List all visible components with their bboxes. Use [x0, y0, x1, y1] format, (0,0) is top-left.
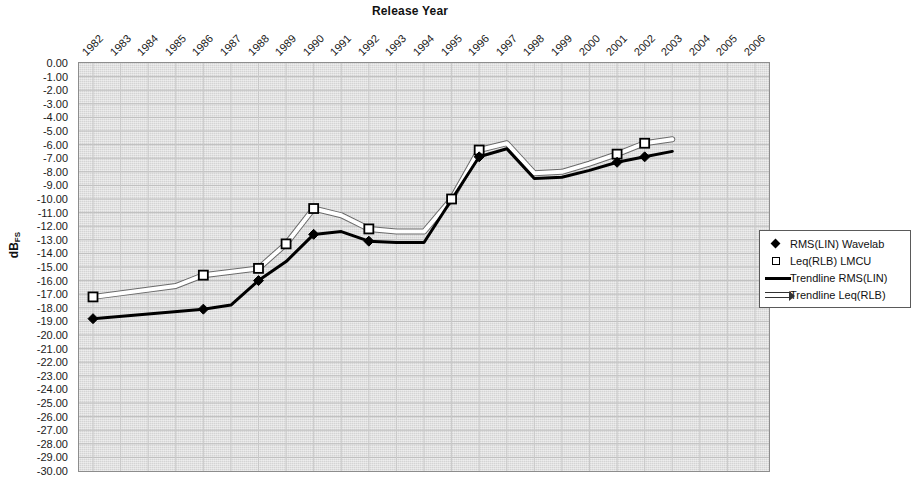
legend-item-label: RMS(LIN) Wavelab [790, 238, 884, 250]
y-axis-tick-label: -1.00 [43, 71, 68, 82]
legend-item[interactable]: Trendline Leq(RLB) [764, 286, 906, 303]
trendline-leq-rlb [93, 139, 672, 297]
x-axis-tick-labels: 1982198319841985198619871988198919901991… [0, 0, 917, 62]
x-axis-tick-label: 1988 [246, 33, 271, 58]
x-axis-tick-label: 1992 [356, 33, 381, 58]
y-axis-tick-label: -22.00 [37, 357, 68, 368]
legend-item-label: Leq(RLB) LMCU [790, 255, 871, 267]
legend-item[interactable]: RMS(LIN) Wavelab [764, 235, 906, 252]
y-axis-tick-label: -27.00 [37, 425, 68, 436]
marker-leq-rlb-lmcu [89, 292, 98, 301]
x-axis-tick-label: 2005 [715, 33, 740, 58]
y-axis-tick-label: -9.00 [43, 180, 68, 191]
marker-leq-rlb-lmcu [640, 139, 649, 148]
x-axis-tick-label: 2000 [577, 33, 602, 58]
legend-key [764, 252, 790, 269]
x-axis-tick-label: 1982 [80, 33, 105, 58]
marker-leq-rlb-lmcu [199, 271, 208, 280]
marker-rms-lin-wavelab [88, 314, 98, 324]
y-axis-tick-label: -19.00 [37, 316, 68, 327]
legend-item[interactable]: Leq(RLB) LMCU [764, 252, 906, 269]
y-axis-tick-label: -11.00 [38, 207, 68, 218]
y-axis-tick-label: -24.00 [37, 384, 68, 395]
marker-leq-rlb-lmcu [364, 224, 373, 233]
legend-item-label: Trendline RMS(LIN) [790, 272, 887, 284]
x-axis-tick-label: 1998 [522, 33, 547, 58]
y-axis-tick-label: -4.00 [43, 112, 68, 123]
legend-item[interactable]: Trendline RMS(LIN) [764, 269, 906, 286]
y-axis-tick-label: -15.00 [37, 262, 68, 273]
marker-leq-rlb-lmcu [309, 204, 318, 213]
y-axis-tick-label: -30.00 [37, 466, 68, 477]
y-axis-tick-label: -6.00 [43, 139, 68, 150]
y-axis-tick-label: -13.00 [37, 234, 68, 245]
marker-rms-lin-wavelab [364, 236, 374, 246]
y-axis-tick-label: -16.00 [37, 275, 68, 286]
x-axis-tick-label: 2003 [659, 33, 684, 58]
x-axis-tick-label: 1993 [384, 33, 409, 58]
x-axis-tick-label: 2001 [604, 33, 629, 58]
x-axis-tick-label: 1989 [273, 33, 298, 58]
legend-key [764, 235, 790, 252]
x-axis-tick-label: 1984 [135, 33, 160, 58]
legend-black-line-icon [765, 277, 791, 280]
legend-white-line-icon [765, 292, 791, 298]
x-axis-tick-label: 1994 [411, 33, 436, 58]
x-axis-tick-label: 1995 [439, 33, 464, 58]
plot-area [78, 62, 770, 472]
y-axis-tick-labels: 0.00-1.00-2.00-3.00-4.00-5.00-6.00-7.00-… [0, 62, 74, 472]
y-axis-tick-label: -18.00 [37, 302, 68, 313]
y-axis-tick-label: -23.00 [37, 370, 68, 381]
trendline-rms-lin [93, 149, 672, 319]
y-axis-tick-label: -28.00 [37, 438, 68, 449]
marker-rms-lin-wavelab [198, 304, 208, 314]
y-axis-tick-label: -8.00 [43, 166, 68, 177]
y-axis-tick-label: -14.00 [37, 248, 68, 259]
marker-leq-rlb-lmcu [447, 195, 456, 204]
x-axis-tick-label: 1985 [163, 33, 188, 58]
y-axis-tick-label: -21.00 [37, 343, 68, 354]
chart-legend: RMS(LIN) WavelabLeq(RLB) LMCUTrendline R… [759, 230, 911, 308]
x-axis-tick-label: 2004 [687, 33, 712, 58]
x-axis-tick-label: 1990 [301, 33, 326, 58]
legend-diamond-icon [771, 238, 781, 248]
x-axis-tick-label: 1986 [191, 33, 216, 58]
x-axis-tick-label: 2006 [742, 33, 767, 58]
plot-canvas [79, 63, 769, 471]
marker-rms-lin-wavelab [640, 152, 650, 162]
y-axis-tick-label: -3.00 [43, 98, 68, 109]
x-axis-tick-label: 1997 [494, 33, 519, 58]
x-axis-tick-label: 1983 [108, 33, 133, 58]
legend-square-icon [772, 257, 780, 265]
x-axis-tick-label: 1999 [549, 33, 574, 58]
y-axis-tick-label: -7.00 [43, 153, 68, 164]
chart-root: Release Year dBFS 0.00-1.00-2.00-3.00-4.… [0, 0, 917, 481]
legend-key [764, 269, 790, 286]
y-axis-tick-label: -26.00 [37, 411, 68, 422]
y-axis-tick-label: -25.00 [37, 398, 68, 409]
y-axis-tick-label: -12.00 [37, 221, 68, 232]
legend-item-label: Trendline Leq(RLB) [790, 289, 886, 301]
y-axis-tick-label: -5.00 [43, 126, 68, 137]
x-axis-tick-label: 1987 [218, 33, 243, 58]
y-axis-tick-label: -17.00 [37, 289, 68, 300]
x-axis-tick-label: 1996 [466, 33, 491, 58]
y-axis-tick-label: -10.00 [37, 194, 68, 205]
legend-key [764, 286, 790, 303]
marker-leq-rlb-lmcu [282, 239, 291, 248]
marker-leq-rlb-lmcu [254, 264, 263, 273]
x-axis-tick-label: 1991 [328, 33, 353, 58]
y-axis-tick-label: -2.00 [43, 85, 68, 96]
y-axis-tick-label: -20.00 [37, 330, 68, 341]
x-axis-tick-label: 2002 [632, 33, 657, 58]
y-axis-tick-label: -29.00 [37, 452, 68, 463]
